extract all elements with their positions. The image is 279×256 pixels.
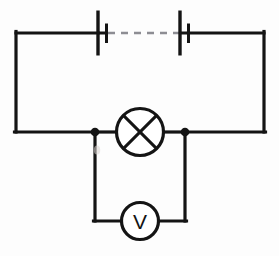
- junction-left-dot: [91, 128, 100, 137]
- circuit-diagram-svg: V: [0, 0, 279, 256]
- junction-right-dot: [181, 128, 190, 137]
- voltmeter-label: V: [133, 210, 147, 233]
- lamp: [117, 109, 164, 156]
- paper-smudge: [94, 145, 100, 154]
- circuit-diagram-canvas: V: [0, 0, 279, 256]
- voltmeter: V: [122, 203, 159, 240]
